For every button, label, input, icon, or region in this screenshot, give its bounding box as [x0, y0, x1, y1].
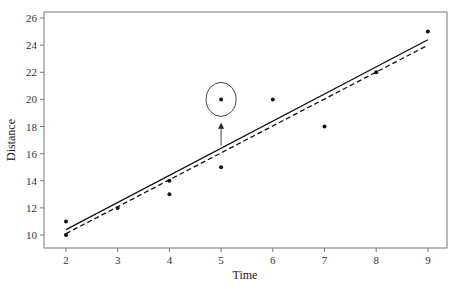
data-point — [167, 179, 171, 183]
x-tick-label: 5 — [218, 254, 224, 266]
x-tick-label: 4 — [167, 254, 173, 266]
y-tick-label: 10 — [26, 229, 38, 241]
x-tick-label: 6 — [270, 254, 276, 266]
y-tick-label: 22 — [26, 66, 37, 78]
data-point — [64, 233, 68, 237]
dashed-fit-line — [66, 45, 428, 233]
x-axis: 23456789 — [63, 248, 431, 266]
y-tick-label: 26 — [26, 12, 38, 24]
x-tick-label: 8 — [373, 254, 379, 266]
y-tick-label: 16 — [26, 148, 38, 160]
y-tick-label: 24 — [26, 39, 38, 51]
data-point — [323, 125, 327, 129]
solid-fit-line — [66, 40, 428, 230]
y-tick-label: 20 — [26, 93, 38, 105]
annotations — [206, 82, 236, 145]
arrow-up-icon — [218, 123, 224, 129]
data-point — [116, 206, 120, 210]
data-point — [219, 97, 223, 101]
y-axis: 101214161820222426 — [26, 12, 44, 241]
x-axis-label: Time — [233, 268, 258, 282]
scatter-chart: 101214161820222426 23456789 Time Distanc… — [0, 0, 457, 289]
regression-lines — [66, 40, 428, 234]
x-tick-label: 2 — [63, 254, 69, 266]
data-point — [64, 219, 68, 223]
x-tick-label: 9 — [425, 254, 431, 266]
plot-frame — [44, 12, 447, 248]
x-tick-label: 7 — [322, 254, 328, 266]
x-tick-label: 3 — [115, 254, 121, 266]
data-point — [167, 192, 171, 196]
data-point — [374, 70, 378, 74]
data-point — [219, 165, 223, 169]
y-tick-label: 18 — [26, 121, 38, 133]
y-tick-label: 14 — [26, 175, 38, 187]
y-axis-label: Distance — [4, 119, 18, 161]
y-tick-label: 12 — [26, 202, 37, 214]
data-point — [426, 30, 430, 34]
data-point — [271, 97, 275, 101]
